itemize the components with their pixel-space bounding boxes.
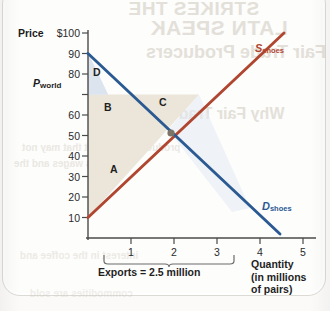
y-tick-label-50: 50	[46, 130, 80, 142]
y-tick-label-30: 30	[46, 171, 80, 183]
x-tick-label-4: 4	[250, 246, 270, 258]
x-axis-title-line-1: Quantity	[251, 258, 306, 271]
y-tick-label-40: 40	[46, 150, 80, 162]
equilibrium-point-marker	[167, 129, 174, 136]
x-axis-ticks	[131, 238, 303, 244]
y-tick-label-60: 60	[46, 109, 80, 121]
y-axis-ticks	[82, 33, 88, 218]
exports-annotation-label: Exports = 2.5 million	[98, 266, 200, 278]
demand-label-subscript: shoes	[270, 204, 292, 213]
demand-curve-label: Dshoes	[262, 200, 292, 213]
y-tick-label-20: 20	[46, 191, 80, 203]
supply-demand-chart: Price $100 90 80 60 50 40 30 20 10 Pworl…	[0, 0, 330, 311]
x-tick-label-1: 1	[121, 246, 141, 258]
region-label-b: B	[104, 101, 112, 113]
demand-label-main: D	[262, 200, 270, 212]
x-axis-title-line-2: (in millions	[251, 271, 306, 284]
y-axis-title: Price	[18, 27, 44, 39]
x-tick-label-5: 5	[293, 246, 313, 258]
y-tick-label-90: 90	[46, 48, 80, 60]
y-tick-label-10: 10	[46, 212, 80, 224]
y-tick-label-100: $100	[46, 27, 80, 39]
x-tick-label-3: 3	[207, 246, 227, 258]
region-label-a: A	[110, 163, 118, 175]
supply-label-subscript: shoes	[262, 46, 284, 55]
p-world-main: P	[33, 77, 40, 89]
p-world-axis-label: Pworld	[33, 77, 61, 90]
region-label-c: C	[159, 96, 167, 108]
region-label-d: D	[93, 66, 101, 78]
x-tick-label-2: 2	[164, 246, 184, 258]
p-world-subscript: world	[40, 81, 61, 90]
scanned-page: STRIKES THE LATN SPEAK Fair Trade Produc…	[0, 0, 330, 311]
x-axis-title: Quantity (in millions of pairs)	[251, 258, 306, 296]
supply-curve-label: Sshoes	[255, 42, 284, 55]
x-axis-title-line-3: of pairs)	[251, 283, 306, 296]
